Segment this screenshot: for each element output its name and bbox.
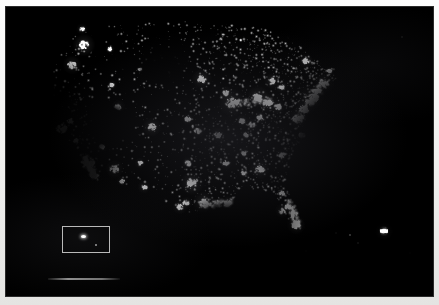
- inset-secondary-spot: [95, 244, 97, 246]
- page-root: [0, 0, 439, 305]
- night-lights-satellite-plate: [6, 7, 433, 296]
- inset-detail-box: [62, 226, 110, 253]
- scale-bar: [48, 278, 120, 280]
- inset-bright-spot: [81, 235, 86, 238]
